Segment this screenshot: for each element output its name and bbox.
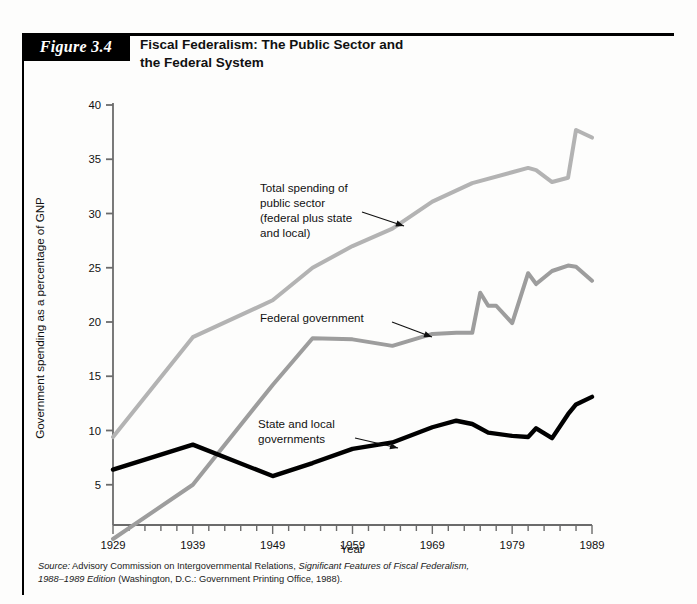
series-line-0 bbox=[113, 130, 592, 437]
y-axis-title: Government spending as a percentage of G… bbox=[33, 197, 46, 439]
annotation-label-state-local-governments: State and local bbox=[258, 417, 335, 430]
annotation-label-total-spending: and local) bbox=[260, 226, 310, 239]
source-note-line-2: 1988–1989 Edition (Washington, D.C.: Gov… bbox=[38, 573, 598, 586]
line-chart: 5101520253035401929193919491959196919791… bbox=[0, 0, 697, 604]
annotation-label-total-spending: public sector bbox=[260, 196, 325, 209]
y-tick-label: 10 bbox=[88, 425, 101, 437]
y-tick-label: 30 bbox=[88, 208, 101, 220]
x-tick-label: 1989 bbox=[579, 539, 604, 551]
source-note-line-1: Source: Advisory Commission on Intergove… bbox=[38, 560, 598, 573]
source-line2-text: (Washington, D.C.: Government Printing O… bbox=[116, 574, 343, 584]
x-axis-title: Year bbox=[340, 542, 364, 555]
y-tick-label: 40 bbox=[88, 99, 101, 111]
y-tick-label: 15 bbox=[88, 370, 101, 382]
source-label: Source: bbox=[38, 561, 70, 571]
y-tick-label: 35 bbox=[88, 153, 101, 165]
series-line-1 bbox=[113, 266, 592, 539]
x-tick-label: 1939 bbox=[180, 539, 205, 551]
annotation-label-state-local-governments: governments bbox=[258, 432, 325, 445]
figure-container: Figure 3.4 Fiscal Federalism: The Public… bbox=[0, 0, 697, 604]
y-tick-label: 25 bbox=[88, 262, 101, 274]
x-tick-label: 1969 bbox=[420, 539, 445, 551]
source-line2-italic: 1988–1989 Edition bbox=[38, 574, 116, 584]
x-tick-label: 1979 bbox=[500, 539, 525, 551]
y-tick-label: 5 bbox=[95, 479, 101, 491]
series-line-2 bbox=[113, 397, 592, 476]
annotation-label-total-spending: Total spending of bbox=[260, 181, 348, 194]
x-tick-label: 1949 bbox=[260, 539, 285, 551]
source-note: Source: Advisory Commission on Intergove… bbox=[38, 560, 598, 585]
annotation-label-federal-government: Federal government bbox=[260, 311, 365, 324]
y-tick-label: 20 bbox=[88, 316, 101, 328]
annotation-label-total-spending: (federal plus state bbox=[260, 211, 352, 224]
chart-series-group bbox=[113, 130, 592, 539]
source-line1-text: Advisory Commission on Intergovernmental… bbox=[70, 561, 298, 571]
source-line1-italic: Significant Features of Fiscal Federalis… bbox=[298, 561, 469, 571]
